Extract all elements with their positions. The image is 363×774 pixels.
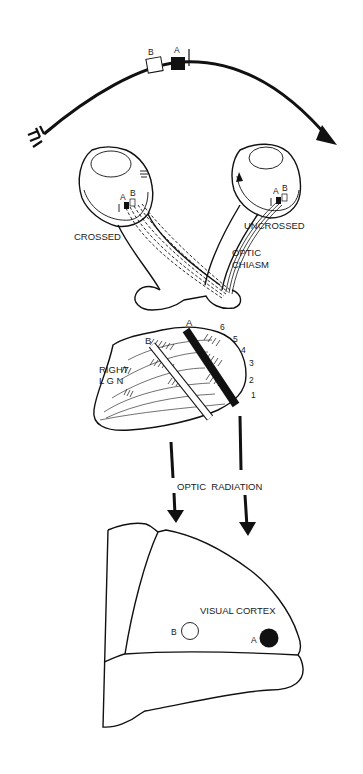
right-eye: A B <box>232 144 301 218</box>
lgn-title-line1: RIGHT <box>99 364 129 375</box>
left-eye-label-a: A <box>120 192 126 202</box>
cortex-label: VISUAL CORTEX <box>200 605 276 616</box>
chiasm-label-line1: OPTIC <box>232 247 261 258</box>
right-eye-label-a: A <box>273 186 279 196</box>
cortex-point-a <box>260 629 279 648</box>
cortex-label-b: B <box>171 627 177 637</box>
right-eye-label-b: B <box>282 183 288 193</box>
field-label-a: A <box>174 45 180 55</box>
arrowhead-icon <box>239 522 256 536</box>
lgn-label-a: A <box>186 317 193 328</box>
svg-text:1: 1 <box>251 390 256 400</box>
arrowhead-icon <box>167 510 184 523</box>
chiasm-label-line2: CHIASM <box>232 259 269 270</box>
cortex-label-a: A <box>251 635 257 645</box>
crossed-label: CROSSED <box>74 231 121 242</box>
visual-field-arc: B A <box>28 45 337 147</box>
svg-text:6: 6 <box>220 322 225 332</box>
uncrossed-label: UNCROSSED <box>244 220 305 231</box>
svg-text:2: 2 <box>249 375 254 385</box>
svg-text:4: 4 <box>241 345 246 355</box>
left-eye: A B <box>79 147 153 227</box>
visual-pathway-diagram: B A A B A <box>0 0 363 774</box>
cortex-point-b <box>182 623 199 640</box>
field-point-a <box>171 57 185 70</box>
arrow-fletching-icon <box>28 126 44 147</box>
visual-cortex <box>103 523 303 727</box>
optic-radiation-arrows <box>167 416 256 536</box>
field-label-b: B <box>148 47 154 57</box>
lgn-label-b: B <box>145 335 151 346</box>
optic-chiasm <box>135 214 241 310</box>
svg-text:3: 3 <box>249 358 254 368</box>
optic-radiation-label: OPTIC RADIATION <box>177 481 262 492</box>
left-eye-label-b: B <box>130 188 136 198</box>
lgn-title-line2: L G N <box>99 375 124 386</box>
field-point-b <box>146 57 163 73</box>
svg-text:5: 5 <box>233 334 238 344</box>
